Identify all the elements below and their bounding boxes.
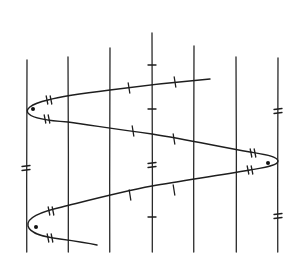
double-tick-mark <box>50 96 52 104</box>
line-double-tick <box>22 166 30 167</box>
double-tick-mark <box>48 115 50 123</box>
double-tick-mark <box>52 207 54 215</box>
double-tick-mark <box>47 234 49 242</box>
line-double-tick <box>148 167 156 168</box>
zigzag-diagram <box>0 0 302 279</box>
line-double-tick <box>274 218 282 219</box>
single-tick-mark <box>128 83 130 93</box>
turn-point-dot <box>34 225 38 229</box>
vertical-lines <box>27 33 278 252</box>
single-tick-mark <box>129 190 131 200</box>
single-tick-mark <box>132 126 134 136</box>
single-tick-mark <box>174 77 176 87</box>
line-double-tick <box>148 163 156 164</box>
double-tick-mark <box>44 115 46 123</box>
double-tick-mark <box>48 207 50 215</box>
double-tick-mark <box>51 234 53 242</box>
double-tick-mark <box>250 149 252 157</box>
turn-point-dot <box>266 161 270 165</box>
double-tick-mark <box>251 166 253 174</box>
double-tick-mark <box>247 166 249 174</box>
double-tick-mark <box>254 149 256 157</box>
turn-point-dot <box>31 107 35 111</box>
line-double-tick <box>274 109 282 110</box>
single-tick-mark <box>173 185 175 195</box>
diagram-canvas <box>0 0 302 279</box>
line-double-tick <box>274 214 282 215</box>
single-tick-mark <box>173 134 175 144</box>
line-double-tick <box>274 113 282 114</box>
line-double-tick <box>22 170 30 171</box>
turn-point-dots <box>31 107 270 229</box>
double-tick-mark <box>46 96 48 104</box>
